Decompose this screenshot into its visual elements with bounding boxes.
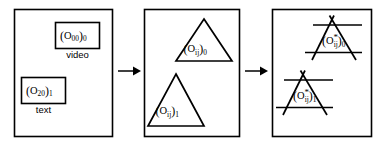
panel-1: (O00)0 video (O20)1 text bbox=[15, 10, 113, 137]
arrow-panel2-to-panel3 bbox=[245, 67, 268, 76]
video-media-label: video bbox=[66, 49, 89, 60]
panel-3-frame bbox=[273, 10, 372, 137]
arrow-1-head bbox=[133, 67, 141, 76]
panel-3: (O*ij)0 (O*ij)1 bbox=[273, 10, 372, 137]
panel-2: (Oij)0 (Oij)1 bbox=[145, 10, 240, 137]
diagram-root: (O00)0 video (O20)1 text (Oij)0 bbox=[0, 0, 388, 146]
arrow-2-head bbox=[260, 67, 268, 76]
text-media-label: text bbox=[36, 104, 52, 115]
diagram-canvas: (O00)0 video (O20)1 text (Oij)0 bbox=[0, 0, 388, 146]
arrow-panel1-to-panel2 bbox=[118, 67, 141, 76]
